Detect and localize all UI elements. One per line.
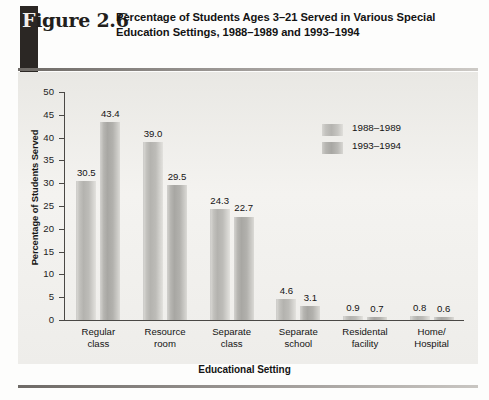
bar-value-label: 0.7 [355,303,399,314]
y-tick-label: 30 [20,177,54,188]
bar-series2 [300,306,320,320]
y-tick-mark [59,252,64,253]
y-tick-mark [59,115,64,116]
figure-number-initial: F [22,9,35,31]
bar-value-label: 43.4 [88,108,132,119]
y-tick-mark [59,320,64,321]
bar-series1 [210,209,230,320]
figure-container: Figure 2.6 Percentage of Students Ages 3… [0,0,489,400]
y-tick-mark [59,138,64,139]
y-tick-label: 45 [20,109,54,120]
x-category-label-line: Home/ [389,326,475,338]
y-tick-mark [59,92,64,93]
y-tick-mark [59,274,64,275]
y-tick-label: 35 [20,154,54,165]
y-tick-mark [59,229,64,230]
bar-series2 [100,122,120,320]
chart-panel: Percentage of Students Served 0510152025… [18,72,478,364]
y-tick-label: 0 [20,314,54,325]
plot-area: 05101520253035404550 30.543.439.029.524.… [64,92,464,320]
y-tick-label: 50 [20,86,54,97]
figure-number: Figure 2.6 [22,9,129,31]
legend-label-1988-1989: 1988–1989 [352,122,401,133]
x-axis-label: Educational Setting [0,364,489,375]
y-tick-label: 25 [20,200,54,211]
y-tick-label: 5 [20,291,54,302]
bar-series2 [367,317,387,320]
bar-series1 [410,316,430,320]
figure-header: Figure 2.6 Percentage of Students Ages 3… [0,0,489,78]
bar-series2 [234,217,254,321]
figure-title: Percentage of Students Ages 3–21 Served … [116,10,456,40]
bar-value-label: 22.7 [222,202,266,213]
x-category-label: Home/Hospital [389,326,475,349]
y-tick-label: 20 [20,223,54,234]
y-tick-label: 40 [20,132,54,143]
y-tick-mark [59,160,64,161]
y-tick-mark [59,297,64,298]
footer-divider [18,385,478,388]
figure-number-rest: igure 2.6 [35,9,128,31]
bar-series1 [143,142,163,320]
bar-value-label: 39.0 [131,128,175,139]
header-divider [18,68,478,71]
legend-swatch-1988-1989 [322,124,343,136]
y-tick-label: 10 [20,268,54,279]
y-axis-line [64,92,65,321]
bar-series2 [167,185,187,320]
bar-value-label: 3.1 [288,292,332,303]
bar-series1 [343,316,363,320]
legend-label-1993-1994: 1993–1994 [352,140,401,151]
x-axis-line [64,320,464,321]
y-tick-mark [59,183,64,184]
x-category-label-line: Hospital [389,338,475,350]
bar-series1 [76,181,96,320]
bar-series2 [434,317,454,320]
legend-swatch-1993-1994 [322,142,343,154]
y-tick-mark [59,206,64,207]
y-tick-label: 15 [20,246,54,257]
bar-value-label: 29.5 [155,171,199,182]
bar-value-label: 0.6 [422,303,466,314]
